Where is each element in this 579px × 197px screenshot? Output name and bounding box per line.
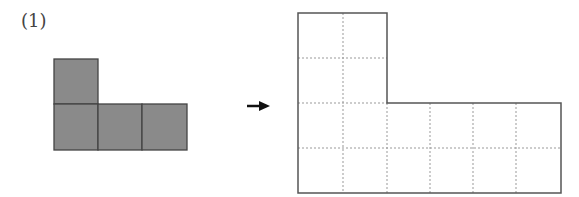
shaded-square xyxy=(98,104,142,150)
right-shape xyxy=(298,13,561,193)
shaded-square xyxy=(54,104,98,150)
shaded-square xyxy=(142,104,187,150)
outline xyxy=(298,13,561,193)
left-shape xyxy=(54,59,187,150)
arrow-icon xyxy=(247,101,270,111)
diagram-canvas xyxy=(0,0,579,197)
shaded-square xyxy=(54,59,98,104)
